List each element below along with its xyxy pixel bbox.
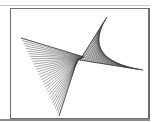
- envelope-line: [24, 43, 84, 57]
- left-fan-lines: [21, 38, 84, 116]
- bottom-rule: [0, 119, 150, 121]
- string-art-figure: [0, 0, 152, 122]
- right-envelope-lines: [80, 17, 143, 70]
- envelope-line: [59, 61, 77, 116]
- envelope-line: [22, 41, 83, 58]
